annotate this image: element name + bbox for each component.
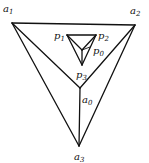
edge-a1-a3 xyxy=(12,23,79,146)
edge-a1-a0 xyxy=(12,23,80,88)
vertex-labels: a1a2a3a0p1p2p3p0 xyxy=(3,3,141,163)
label-a0: a0 xyxy=(82,94,93,107)
label-a2: a2 xyxy=(130,5,141,18)
edge-p1-p3 xyxy=(67,35,82,65)
label-p1: p1 xyxy=(54,30,65,43)
edge-a1-a2 xyxy=(12,23,135,25)
label-p0: p0 xyxy=(93,45,104,58)
edge-p1-p0 xyxy=(67,35,82,50)
triangle-diagram: a1a2a3a0p1p2p3p0 xyxy=(0,0,149,163)
label-p3: p3 xyxy=(76,69,87,82)
edge-a3-a0 xyxy=(79,88,80,146)
label-p2: p2 xyxy=(98,30,109,43)
edge-a2-a3 xyxy=(79,25,135,146)
label-a3: a3 xyxy=(74,151,85,163)
label-a1: a1 xyxy=(3,3,13,16)
diagram-edges xyxy=(12,23,135,146)
